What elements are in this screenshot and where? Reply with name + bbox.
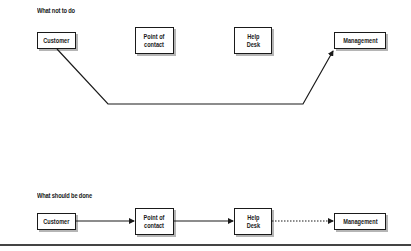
- bottom-divider: [0, 244, 411, 246]
- wrong-bypass-arrow: [57, 49, 333, 104]
- connector-lines: [0, 0, 411, 251]
